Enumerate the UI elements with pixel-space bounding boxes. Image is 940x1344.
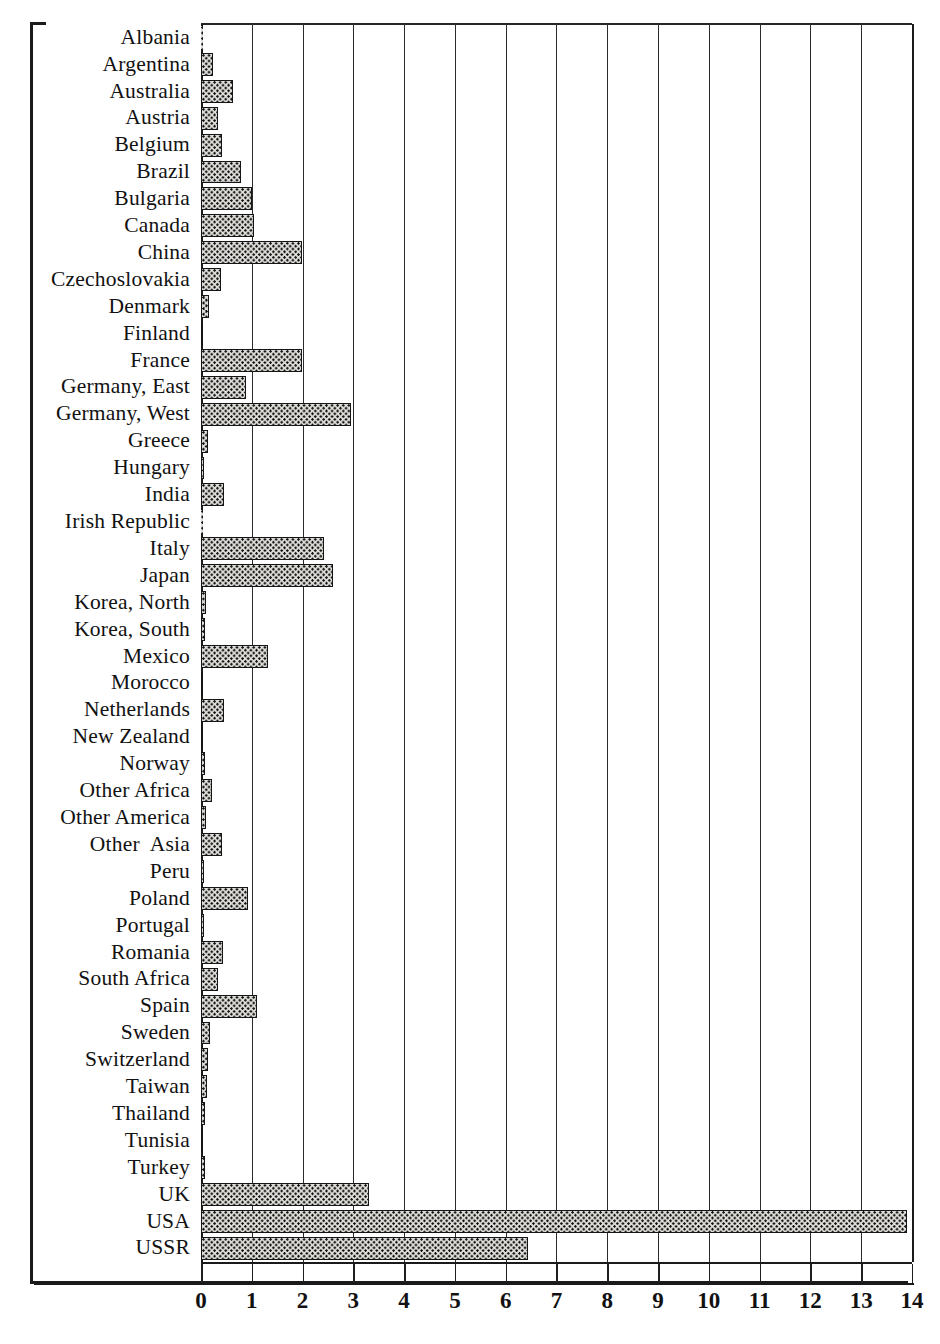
bar [201,887,248,910]
bar-row [201,885,912,912]
x-tick-label-4: 4 [398,1289,410,1312]
bar [201,483,224,506]
bar [201,726,203,749]
x-tick-2 [303,1264,305,1283]
category-label: Sweden [0,1020,196,1047]
bar-row [201,1235,912,1262]
bar-row [201,670,912,697]
category-label: New Zealand [0,724,196,751]
category-label: Spain [0,993,196,1020]
category-label: Morocco [0,670,196,697]
bar-row [201,185,912,212]
category-label: Other America [0,804,196,831]
bar-row [201,481,912,508]
category-label: Romania [0,939,196,966]
x-tick-label-7: 7 [551,1289,563,1312]
bar-row [201,724,912,751]
bar [201,699,224,722]
bar-row [201,858,912,885]
bar [201,672,203,695]
x-tick-label-12: 12 [799,1289,822,1312]
category-label: Other Asia [0,831,196,858]
bar [201,1183,369,1206]
bar-row [201,293,912,320]
category-label: Italy [0,535,196,562]
x-tick-label-8: 8 [601,1289,613,1312]
x-tick-label-0: 0 [195,1289,207,1312]
category-label: Switzerland [0,1046,196,1073]
bar [201,53,213,76]
bar [201,161,241,184]
category-label: Turkey [0,1154,196,1181]
category-label: Finland [0,320,196,347]
x-tick-label-6: 6 [500,1289,512,1312]
bar [201,187,252,210]
bar [201,914,204,937]
category-label: Germany, East [0,374,196,401]
x-tick-label-3: 3 [348,1289,360,1312]
bar [201,860,204,883]
bar [201,564,333,587]
category-label: Other Africa [0,777,196,804]
x-tick-label-5: 5 [449,1289,461,1312]
bar-row [201,428,912,455]
bar-row [201,1100,912,1127]
category-label: Bulgaria [0,185,196,212]
bar-row [201,1154,912,1181]
bar-row [201,966,912,993]
bar [201,968,218,991]
bar [201,1210,907,1233]
bar-row [201,1020,912,1047]
x-tick-label-2: 2 [297,1289,309,1312]
bar [201,241,302,264]
horizontal-bar-chart: p AlbaniaArgentinaAustraliaAustriaBelgiu… [0,0,940,1344]
bar-row [201,320,912,347]
bar [201,1237,528,1260]
category-label: Australia [0,78,196,105]
x-tick-0 [201,1264,203,1283]
bar [201,26,203,49]
x-tick-10 [709,1264,711,1283]
category-label: Poland [0,885,196,912]
bar-row [201,508,912,535]
bar-row [201,777,912,804]
category-label: Czechoslovakia [0,266,196,293]
bar-row [201,1181,912,1208]
category-label: Japan [0,562,196,589]
bar [201,1102,205,1125]
bar [201,806,206,829]
category-label: Thailand [0,1100,196,1127]
bar-row [201,804,912,831]
bar-row [201,401,912,428]
category-label: Denmark [0,293,196,320]
x-tick-7 [556,1264,558,1283]
category-label: Belgium [0,132,196,159]
bar-row [201,347,912,374]
bar [201,1129,203,1152]
category-label: Brazil [0,159,196,186]
bar [201,295,209,318]
bar-row [201,78,912,105]
bar [201,618,205,641]
x-axis-rule [34,1283,914,1285]
plot-area [201,24,912,1262]
bar-rows [201,24,912,1262]
category-label: Netherlands [0,697,196,724]
bar-row [201,455,912,482]
x-tick-label-11: 11 [749,1289,771,1312]
category-label: Hungary [0,455,196,482]
category-label: Germany, West [0,401,196,428]
x-tick-5 [455,1264,457,1283]
bar-row [201,105,912,132]
category-label: Norway [0,750,196,777]
category-label: Tunisia [0,1127,196,1154]
bar [201,430,208,453]
bar-row [201,159,912,186]
bar-row [201,562,912,589]
x-tick-1 [252,1264,254,1283]
x-tick-label-10: 10 [697,1289,720,1312]
bar [201,376,246,399]
category-label: USSR [0,1235,196,1262]
x-tick-4 [404,1264,406,1283]
category-label: India [0,481,196,508]
